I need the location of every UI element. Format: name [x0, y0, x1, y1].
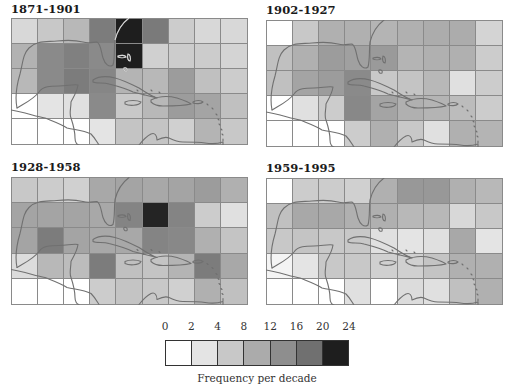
grid-cell	[143, 69, 169, 94]
legend-tick-label: 12	[263, 320, 276, 332]
grid-cell	[143, 203, 169, 228]
grid-cell	[371, 229, 397, 254]
grid-cell	[169, 254, 195, 279]
grid-cell	[12, 94, 38, 119]
grid-cell	[450, 21, 476, 46]
grid-cell	[345, 21, 371, 46]
grid-cell	[90, 178, 116, 203]
grid-cell	[450, 204, 476, 229]
grid-cell	[12, 178, 38, 203]
grid-cell	[90, 279, 116, 304]
grid-cell	[424, 279, 450, 304]
grid-cell	[195, 94, 221, 119]
grid-cell	[476, 46, 502, 71]
grid-cell	[398, 204, 424, 229]
grid-cell	[90, 19, 116, 44]
grid-cell	[319, 179, 345, 204]
grid-cell	[319, 254, 345, 279]
grid-cell	[267, 204, 293, 229]
legend-tick-label: 20	[316, 320, 329, 332]
frequency-grid	[11, 177, 248, 305]
grid-cell	[371, 21, 397, 46]
grid-cell	[371, 279, 397, 304]
frequency-legend: 024812162024 Frequency per decade	[165, 320, 349, 338]
grid-cell	[345, 121, 371, 146]
grid-cell	[64, 44, 90, 69]
grid-cell	[398, 96, 424, 121]
grid-cell	[143, 178, 169, 203]
grid-cell	[293, 96, 319, 121]
grid-cell	[345, 179, 371, 204]
grid-cell	[12, 19, 38, 44]
grid-cell	[143, 254, 169, 279]
grid-cell	[169, 69, 195, 94]
grid-cell	[371, 121, 397, 146]
grid-cell	[267, 254, 293, 279]
grid-cell	[293, 71, 319, 96]
grid-cell	[195, 178, 221, 203]
grid-cell	[169, 94, 195, 119]
grid-cell	[116, 119, 142, 144]
grid-cell	[267, 229, 293, 254]
grid-cell	[12, 69, 38, 94]
grid-cell	[169, 178, 195, 203]
grid-cell	[169, 228, 195, 253]
grid-cell	[398, 229, 424, 254]
frequency-grid	[266, 20, 503, 147]
grid-cell	[38, 254, 64, 279]
grid-cell	[267, 279, 293, 304]
grid-cell	[169, 119, 195, 144]
grid-cell	[195, 254, 221, 279]
grid-cell	[424, 229, 450, 254]
grid-cell	[424, 204, 450, 229]
grid-cell	[424, 254, 450, 279]
legend-swatch	[297, 341, 323, 365]
grid-cell	[38, 203, 64, 228]
legend-color-bar	[165, 340, 349, 366]
grid-cell	[319, 279, 345, 304]
grid-cell	[221, 279, 247, 304]
grid-cell	[371, 204, 397, 229]
legend-swatch	[218, 341, 244, 365]
grid-cell	[64, 203, 90, 228]
grid-cell	[12, 119, 38, 144]
legend-swatch	[192, 341, 218, 365]
grid-cell	[267, 179, 293, 204]
grid-cell	[345, 279, 371, 304]
grid-cell	[450, 121, 476, 146]
grid-cell	[345, 46, 371, 71]
grid-cell	[64, 94, 90, 119]
grid-cell	[169, 19, 195, 44]
grid-cell	[38, 279, 64, 304]
grid-cell	[476, 21, 502, 46]
grid-cell	[195, 228, 221, 253]
legend-swatch	[323, 341, 348, 365]
grid-cell	[319, 71, 345, 96]
grid-cell	[143, 228, 169, 253]
grid-cell	[221, 94, 247, 119]
panel-title: 1902-1927	[266, 3, 336, 17]
grid-cell	[476, 71, 502, 96]
grid-cell	[476, 254, 502, 279]
grid-cell	[476, 279, 502, 304]
grid-cell	[38, 178, 64, 203]
grid-cell	[450, 46, 476, 71]
grid-cell	[221, 19, 247, 44]
grid-cell	[38, 69, 64, 94]
grid-cell	[293, 204, 319, 229]
grid-cell	[319, 46, 345, 71]
grid-cell	[90, 69, 116, 94]
legend-tick-label: 8	[241, 320, 248, 332]
grid-cell	[476, 204, 502, 229]
grid-cell	[450, 254, 476, 279]
frequency-grid	[266, 178, 503, 305]
panel-title: 1928-1958	[11, 160, 81, 174]
grid-cell	[371, 179, 397, 204]
grid-cell	[143, 94, 169, 119]
grid-cell	[64, 228, 90, 253]
grid-cell	[64, 279, 90, 304]
grid-cell	[38, 228, 64, 253]
grid-cell	[116, 69, 142, 94]
grid-cell	[64, 254, 90, 279]
grid-cell	[195, 203, 221, 228]
